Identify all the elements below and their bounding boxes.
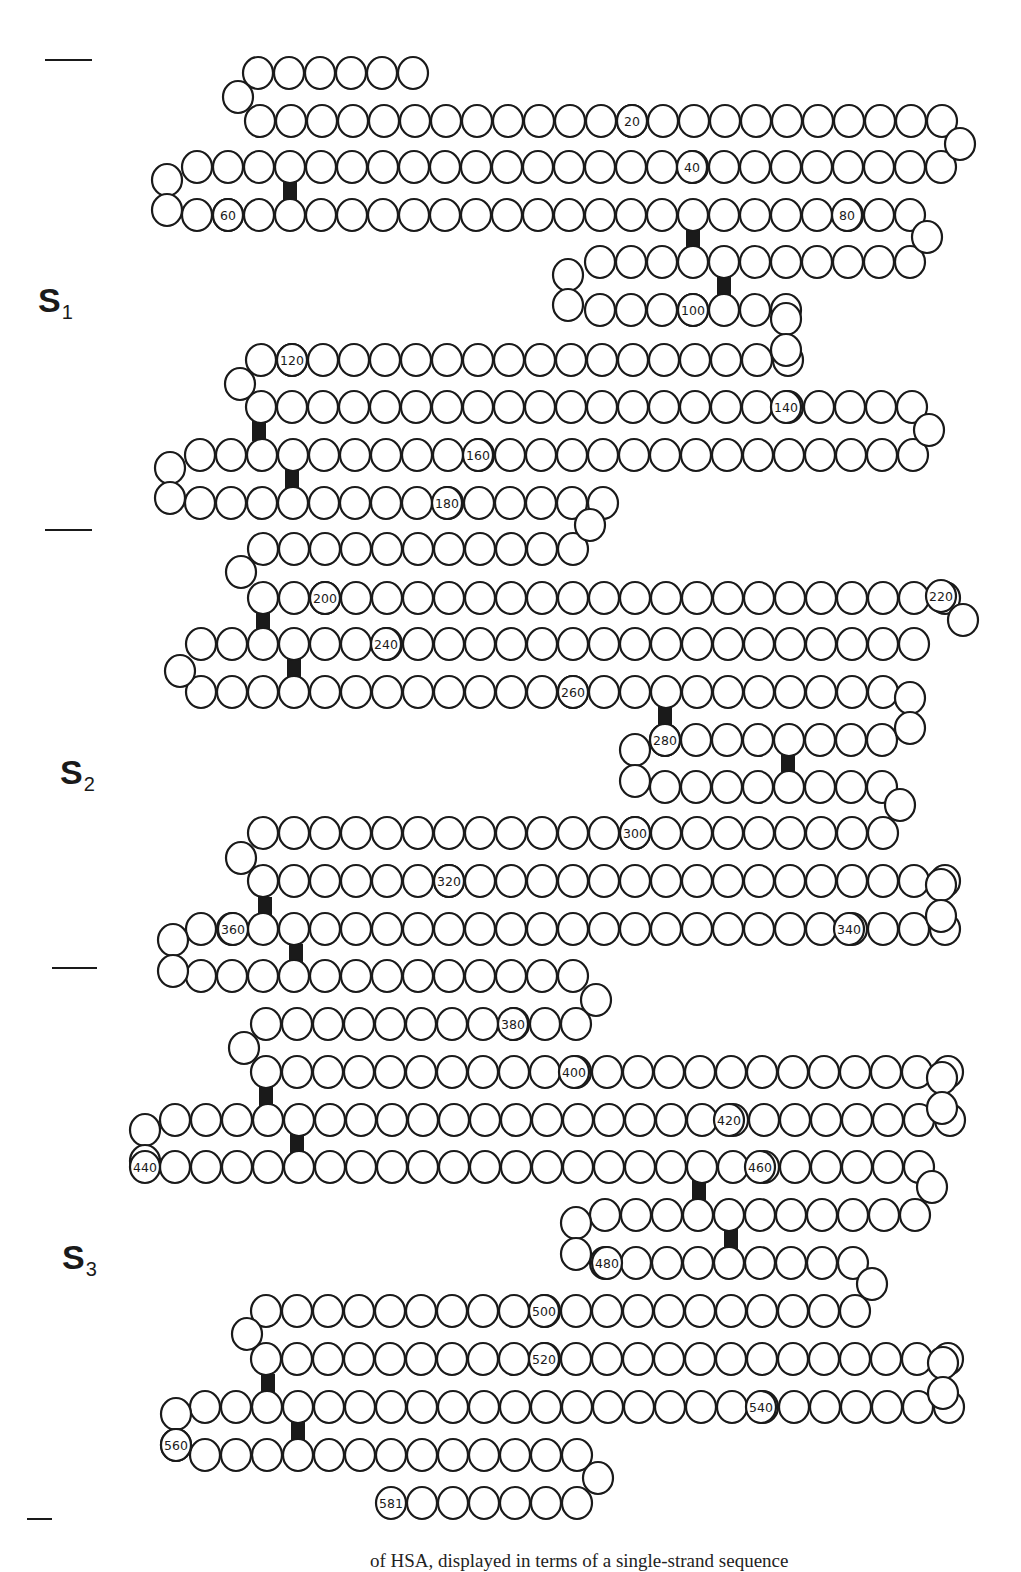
residue-circle: [655, 1391, 685, 1423]
residue-circle: [589, 582, 619, 614]
residue-circle: [408, 1151, 438, 1183]
residue-circle: [620, 913, 650, 945]
residue-circle-turn: [226, 556, 256, 588]
residue-circle: [558, 582, 588, 614]
residue-circle: [780, 1104, 810, 1136]
residue-circle: [406, 1056, 436, 1088]
residue-circle: [434, 913, 464, 945]
residue-circle-turn: [225, 368, 255, 400]
residue-circle: [190, 1439, 220, 1471]
residue-circle: [836, 439, 866, 471]
residue-circle: [399, 199, 429, 231]
residue-circle: [403, 865, 433, 897]
residue-circle: [310, 628, 340, 660]
residue-circle: [743, 439, 773, 471]
residue-circle: [251, 1008, 281, 1040]
residue-circle: [432, 391, 462, 423]
residue-circle: [621, 1199, 651, 1231]
residue-circle: [465, 960, 495, 992]
residue-circle: [593, 1391, 623, 1423]
residue-circle: [160, 1151, 190, 1183]
residue-circle: [686, 1391, 716, 1423]
residue-circle: [345, 1391, 375, 1423]
residue-circle: [811, 1104, 841, 1136]
residue-circle: [252, 1391, 282, 1423]
residue-number: 480: [595, 1256, 619, 1271]
residue-circle: [616, 294, 646, 326]
residue-circle: [372, 817, 402, 849]
residue-circle: [740, 246, 770, 278]
residue-circle: [191, 1151, 221, 1183]
residue-circle: [711, 391, 741, 423]
residue-circle: [744, 628, 774, 660]
residue-circle: [524, 105, 554, 137]
residue-circle: [742, 391, 772, 423]
residue-circle: [899, 628, 929, 660]
residue-circle: [283, 1439, 313, 1471]
residue-circle: [463, 391, 493, 423]
residue-circle: [438, 1439, 468, 1471]
residue-number: 240: [374, 637, 398, 652]
residue-circle: [623, 1295, 653, 1327]
residue-circle: [685, 1295, 715, 1327]
residue-circle: [562, 1391, 592, 1423]
residue-circle: [496, 913, 526, 945]
residue-circle: [278, 439, 308, 471]
residue-circle-turn: [928, 1377, 958, 1409]
domain-subscript: 3: [86, 1258, 97, 1280]
residue-circle: [496, 533, 526, 565]
residue-circle: [368, 199, 398, 231]
residue-circle: [527, 628, 557, 660]
residue-circle: [685, 1343, 715, 1375]
residue-circle: [308, 344, 338, 376]
residue-circle: [713, 676, 743, 708]
residue-circle: [406, 1295, 436, 1327]
residue-circle: [526, 487, 556, 519]
residue-circle: [283, 1391, 313, 1423]
residue-circle: [563, 1151, 593, 1183]
residue-circle: [647, 294, 677, 326]
residue-circle: [806, 628, 836, 660]
residue-circle: [806, 817, 836, 849]
residue-circle: [434, 582, 464, 614]
residue-circle: [341, 817, 371, 849]
domain-letter: S: [62, 1238, 85, 1276]
residue-circle: [346, 1151, 376, 1183]
residue-circle: [648, 105, 678, 137]
residue-circle: [492, 151, 522, 183]
residue-number: 180: [435, 496, 459, 511]
residue-circle: [247, 487, 277, 519]
residue-circle: [469, 1439, 499, 1471]
figure-caption-fragment: of HSA, displayed in terms of a single-s…: [370, 1550, 1010, 1572]
residue-circle: [555, 105, 585, 137]
residue-circle: [681, 771, 711, 803]
residue-circle: [771, 246, 801, 278]
residue-circle: [775, 913, 805, 945]
domain-label-s1: S1: [38, 283, 73, 322]
residue-number: 320: [437, 874, 461, 889]
residue-circle: [437, 1056, 467, 1088]
residue-circle: [160, 1104, 190, 1136]
residue-circle: [372, 533, 402, 565]
residue-circle: [585, 151, 615, 183]
residue-circle: [651, 676, 681, 708]
residue-circle: [682, 817, 712, 849]
residue-circle: [344, 1295, 374, 1327]
residue-circle: [500, 1391, 530, 1423]
residue-circle: [587, 391, 617, 423]
residue-circle: [647, 199, 677, 231]
residue-circle: [371, 439, 401, 471]
residue-circle: [339, 344, 369, 376]
residue-circle: [376, 1439, 406, 1471]
residue-circle: [278, 487, 308, 519]
residue-circle: [344, 1056, 374, 1088]
residue-circle: [802, 199, 832, 231]
residue-circle: [774, 724, 804, 756]
residue-circle: [315, 1151, 345, 1183]
residue-circle: [315, 1104, 345, 1136]
residue-circle-turn: [912, 221, 942, 253]
residue-circle: [248, 960, 278, 992]
residue-circle: [275, 151, 305, 183]
residue-circle: [401, 391, 431, 423]
residue-circle: [531, 1487, 561, 1519]
